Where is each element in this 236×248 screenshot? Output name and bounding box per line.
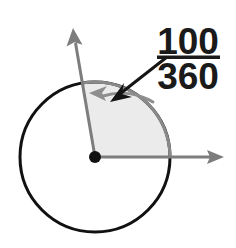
fraction-label: 100 360 — [157, 21, 220, 97]
circle-sector-figure: 100 360 — [0, 0, 236, 248]
center-dot — [89, 151, 101, 163]
sector-fraction-diagram: 100 360 — [0, 0, 236, 248]
fraction-denominator: 360 — [157, 56, 219, 97]
